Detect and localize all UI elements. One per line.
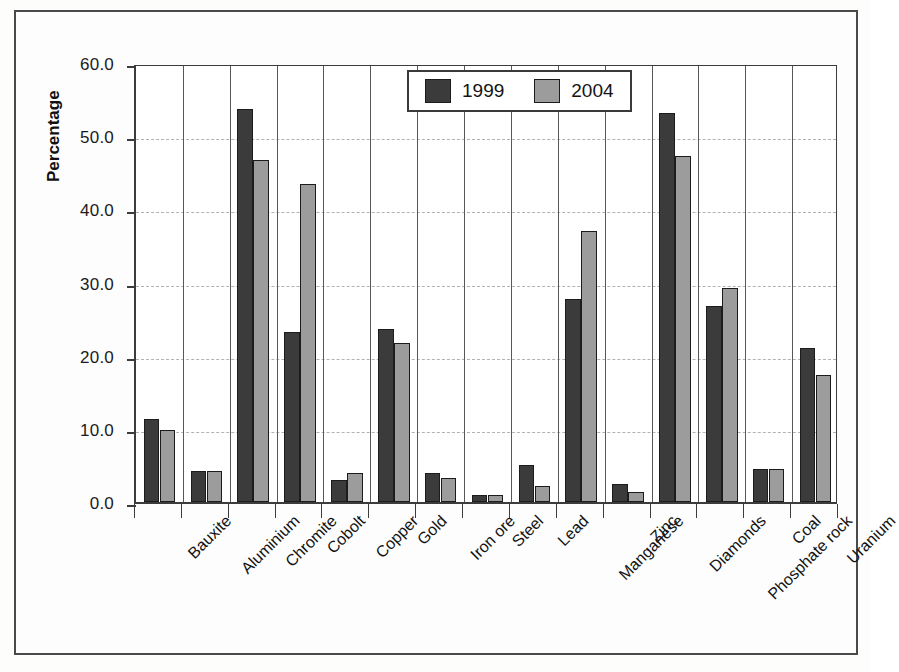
y-axis-tick bbox=[127, 432, 136, 434]
bar-uranium-1999 bbox=[800, 348, 816, 502]
bar-aluminium-1999 bbox=[191, 471, 207, 502]
category-separator bbox=[277, 66, 278, 502]
category-separator bbox=[698, 66, 699, 502]
category-separator bbox=[183, 66, 184, 502]
bar-gold-1999 bbox=[378, 329, 394, 502]
figure-frame: Percentage 0.010.020.030.040.050.060.0 B… bbox=[14, 10, 858, 655]
category-separator bbox=[605, 66, 606, 502]
category-separator bbox=[745, 66, 746, 502]
bar-manganese-1999 bbox=[565, 299, 581, 502]
bar-aluminium-2004 bbox=[207, 471, 223, 502]
bar-bauxite-1999 bbox=[144, 419, 160, 502]
bar-cobolt-1999 bbox=[284, 332, 300, 502]
bar-zinc-2004 bbox=[628, 492, 644, 502]
x-axis-labels: BauxiteAluminiumChromiteCoboltCopperGold… bbox=[134, 512, 837, 642]
y-axis-tick bbox=[127, 139, 136, 141]
y-axis-tick-label: 0.0 bbox=[52, 494, 114, 514]
x-axis-label-lead: Lead bbox=[555, 512, 593, 550]
category-separator bbox=[511, 66, 512, 502]
bar-gold-2004 bbox=[394, 343, 410, 503]
bar-lead-1999 bbox=[519, 465, 535, 502]
category-separator bbox=[792, 66, 793, 502]
legend-label-1999: 1999 bbox=[462, 80, 504, 102]
bar-phosphate-rock-1999 bbox=[706, 306, 722, 502]
bar-copper-1999 bbox=[331, 480, 347, 502]
bar-manganese-2004 bbox=[581, 231, 597, 502]
y-axis-tick-label: 40.0 bbox=[52, 201, 114, 221]
bar-phosphate-rock-2004 bbox=[722, 288, 738, 502]
y-axis-tick-label: 20.0 bbox=[52, 348, 114, 368]
bars-layer bbox=[136, 66, 836, 502]
bar-diamonds-2004 bbox=[675, 156, 691, 502]
bar-chromite-2004 bbox=[253, 160, 269, 502]
x-axis-label-steel: Steel bbox=[508, 512, 547, 551]
legend-item-2004: 2004 bbox=[534, 79, 613, 103]
y-axis-tick bbox=[127, 286, 136, 288]
x-axis-label-diamonds: Diamonds bbox=[706, 512, 770, 576]
y-axis-tick bbox=[127, 212, 136, 214]
y-axis-tick-label: 30.0 bbox=[52, 275, 114, 295]
bar-bauxite-2004 bbox=[160, 430, 176, 502]
y-axis-tick-label: 60.0 bbox=[52, 55, 114, 75]
light-gray-swatch-icon bbox=[534, 79, 560, 103]
bar-zinc-1999 bbox=[612, 484, 628, 502]
bar-coal-2004 bbox=[769, 469, 785, 502]
category-separator bbox=[417, 66, 418, 502]
dark-gray-swatch-icon bbox=[425, 79, 451, 103]
plot-area bbox=[134, 65, 837, 504]
bar-copper-2004 bbox=[347, 473, 363, 502]
category-separator bbox=[464, 66, 465, 502]
bar-diamonds-1999 bbox=[659, 113, 675, 502]
category-separator bbox=[323, 66, 324, 502]
y-axis-tick bbox=[127, 66, 136, 68]
category-separator bbox=[652, 66, 653, 502]
bar-steel-2004 bbox=[488, 495, 504, 502]
bar-steel-1999 bbox=[472, 495, 488, 502]
bar-iron-ore-2004 bbox=[441, 478, 457, 502]
y-axis-tick-label: 10.0 bbox=[52, 421, 114, 441]
bar-chromite-1999 bbox=[237, 109, 253, 502]
x-axis-label-bauxite: Bauxite bbox=[185, 512, 235, 562]
category-separator bbox=[558, 66, 559, 502]
bar-lead-2004 bbox=[535, 486, 551, 502]
bar-coal-1999 bbox=[753, 469, 769, 502]
legend-label-2004: 2004 bbox=[571, 80, 613, 102]
chart-legend: 1999 2004 bbox=[407, 70, 632, 112]
category-separator bbox=[230, 66, 231, 502]
x-axis-label-gold: Gold bbox=[414, 512, 451, 549]
legend-item-1999: 1999 bbox=[425, 79, 504, 103]
bar-iron-ore-1999 bbox=[425, 473, 441, 502]
bar-uranium-2004 bbox=[816, 375, 832, 502]
y-axis-tick bbox=[127, 359, 136, 361]
y-axis-tick-label: 50.0 bbox=[52, 128, 114, 148]
category-separator bbox=[370, 66, 371, 502]
bar-cobolt-2004 bbox=[300, 184, 316, 502]
